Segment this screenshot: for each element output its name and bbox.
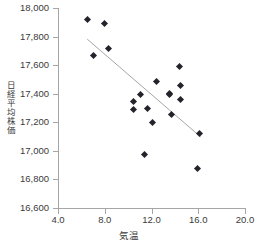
y-tick-label: 17,600	[5, 60, 49, 70]
x-tick-label: 16.0	[183, 215, 213, 225]
y-tick-label: 17,000	[5, 146, 49, 156]
x-tick-label: 4.0	[43, 215, 73, 225]
scatter-chart: 18,00017,80017,60017,40017,20017,00016,8…	[0, 0, 257, 247]
x-axis-title: 気温	[0, 228, 257, 242]
y-axis-title: 日経平均株価	[1, 73, 14, 143]
x-tick-label: 12.0	[137, 215, 167, 225]
x-tick-label: 20.0	[230, 215, 257, 225]
y-tick-label: 16,600	[5, 203, 49, 213]
y-tick-label: 17,800	[5, 32, 49, 42]
y-tick-label: 18,000	[5, 3, 49, 13]
plot-area	[58, 8, 245, 208]
y-tick-label: 16,800	[5, 174, 49, 184]
x-tick-label: 8.0	[90, 215, 120, 225]
